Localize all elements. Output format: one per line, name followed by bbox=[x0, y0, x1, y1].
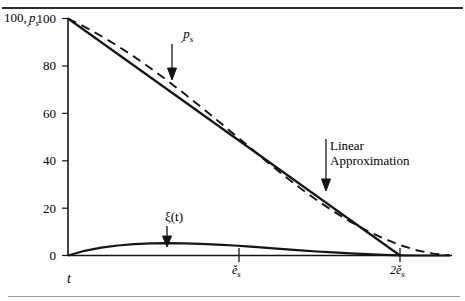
linear-arrow-head-icon bbox=[322, 179, 331, 191]
ps-annotation-label: ,ps bbox=[181, 27, 193, 44]
linear-annotation-line1: Linear bbox=[330, 138, 409, 153]
y-tick-label-80: 80 bbox=[22, 59, 56, 72]
x-tick-label-es: ěs bbox=[232, 264, 241, 279]
y-tick-label-40: 40 bbox=[22, 154, 56, 167]
y-tick-label-0: 0 bbox=[22, 249, 56, 262]
figure-panel: 100,,ps 100 80 60 40 20 0 ěs 2ěs t ,ps ξ… bbox=[0, 0, 465, 301]
y-tick-label-100: 100 bbox=[22, 12, 56, 25]
xi-arrow-head-icon bbox=[163, 236, 172, 247]
y-tick-label-60: 60 bbox=[22, 107, 56, 120]
ps-annotation-subscript: s bbox=[190, 34, 194, 44]
x-axis-title: t bbox=[67, 272, 71, 286]
series-ps-exponential bbox=[68, 19, 450, 256]
x-tick-label-2es-sym: 2ě bbox=[390, 263, 401, 277]
x-tick-label-2es-sub: s bbox=[401, 269, 405, 279]
xi-annotation-label: ξ(t) bbox=[165, 210, 183, 223]
linear-annotation-line2: Approximation bbox=[330, 153, 409, 168]
series-linear-approximation bbox=[68, 19, 400, 256]
x-tick-label-es-sub: s bbox=[237, 269, 241, 279]
linear-approximation-annotation: Linear Approximation bbox=[330, 138, 409, 169]
x-tick-label-2es: 2ěs bbox=[390, 264, 405, 279]
ps-arrow-head-icon bbox=[168, 68, 177, 80]
y-tick-label-20: 20 bbox=[22, 202, 56, 215]
